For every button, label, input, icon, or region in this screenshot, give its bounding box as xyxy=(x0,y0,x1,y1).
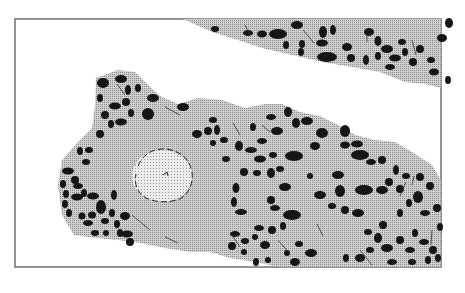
tissue-diagram xyxy=(0,0,465,293)
